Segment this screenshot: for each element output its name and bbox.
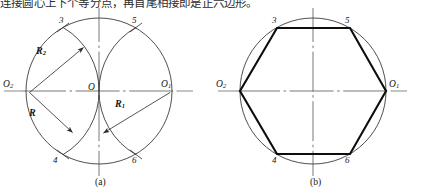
dimension-arrow-r1: [104, 93, 171, 134]
label-radius-R: R: [29, 108, 36, 118]
label-vertex-3-b: 3: [272, 16, 277, 25]
label-point-O1-b: O1: [389, 80, 399, 90]
label-vertex-3-a: 3: [59, 16, 64, 25]
label-vertex-4-b: 4: [272, 156, 277, 165]
label-vertex-6-a: 6: [132, 156, 137, 165]
label-radius-R2: R2: [36, 46, 46, 57]
label-vertex-4-a: 4: [53, 156, 58, 165]
figure-a-group: [4, 8, 193, 176]
label-vertex-5-b: 5: [345, 16, 350, 25]
label-radius-R1: R1: [115, 99, 125, 110]
label-point-O-a: O: [88, 83, 95, 93]
figure-b-group: [218, 8, 407, 176]
caption-figure-b: (b): [310, 178, 321, 188]
label-point-O2-b: O2: [216, 80, 226, 90]
label-vertex-5-a: 5: [132, 16, 137, 25]
label-point-O1-a: O1: [161, 80, 171, 90]
figure-root: 连接圆心上下个等分点，再首尾相接即是正六边形。: [0, 0, 424, 196]
caption-figure-a: (a): [95, 178, 106, 188]
geometry-canvas: [0, 0, 424, 196]
label-vertex-6-b: 6: [345, 156, 350, 165]
label-point-O2-a: O2: [3, 80, 13, 90]
